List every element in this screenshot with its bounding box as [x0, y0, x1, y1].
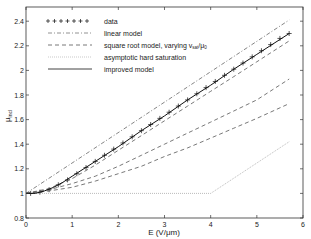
- series-line: [26, 79, 289, 193]
- x-tick-label: 6: [301, 221, 305, 228]
- x-tick-label: 2: [116, 221, 120, 228]
- x-tick-label: 1: [70, 221, 74, 228]
- y-tick-label: 1.2: [14, 165, 24, 172]
- legend: datalinear modelsquare root model, varyi…: [46, 18, 207, 74]
- chart-svg: 01234560.811.21.41.61.822.22.4 datalinea…: [0, 0, 311, 239]
- y-tick-label: 1.8: [14, 92, 24, 99]
- svg-text:μincl: μincl: [3, 110, 13, 122]
- legend-label: square root model, varying vsat/μ0: [104, 42, 207, 51]
- x-tick-label: 5: [255, 221, 259, 228]
- y-axis-label: μincl: [3, 110, 13, 122]
- x-tick-label: 3: [163, 221, 167, 228]
- chart: 01234560.811.21.41.61.822.22.4 datalinea…: [0, 0, 311, 239]
- legend-label: improved model: [104, 66, 154, 74]
- y-tick-label: 1: [20, 190, 24, 197]
- x-axis-label: E (V/μm): [148, 228, 180, 237]
- y-tick-label: 1.4: [14, 141, 24, 148]
- legend-label: linear model: [104, 30, 143, 37]
- y-tick-label: 0.8: [14, 215, 24, 222]
- legend-label: data: [104, 18, 118, 25]
- y-tick-label: 1.6: [14, 116, 24, 123]
- x-tick-label: 4: [209, 221, 213, 228]
- legend-label: asymptotic hard saturation: [104, 54, 186, 62]
- y-tick-label: 2: [20, 67, 24, 74]
- y-tick-label: 2.2: [14, 42, 24, 49]
- y-tick-label: 2.4: [14, 18, 24, 25]
- series-line: [26, 41, 289, 194]
- x-tick-label: 0: [24, 221, 28, 228]
